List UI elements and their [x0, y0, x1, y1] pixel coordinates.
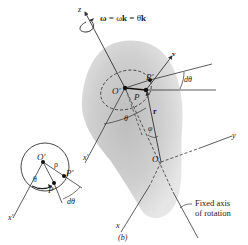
- inset-o-prime-label: O′: [37, 152, 46, 162]
- d-theta-label: dθ: [184, 75, 192, 84]
- inset-diagram: [13, 143, 82, 218]
- phi-label: φ: [148, 124, 153, 133]
- figure-caption: (b): [118, 233, 128, 242]
- v-label: v: [172, 50, 176, 58]
- inset-d-theta-label: dθ: [67, 197, 75, 206]
- inset-rho-label: ρ: [54, 160, 58, 169]
- x-axis-label: x: [115, 221, 120, 230]
- inset-p-label: P: [47, 185, 54, 195]
- inset-x-prime-label: x′: [7, 213, 14, 222]
- point-p: [144, 88, 148, 92]
- point-o-prime: [123, 86, 127, 90]
- p-prime-label: P′: [145, 72, 154, 82]
- inset-theta-label: θ: [33, 175, 37, 184]
- z-axis-label: z: [77, 5, 82, 14]
- rotation-arrow-icon: [80, 22, 94, 32]
- r-label: r: [153, 107, 157, 116]
- fixed-axis-label-1: Fixed axis: [195, 198, 230, 208]
- y-axis-label: y: [231, 131, 236, 140]
- rigid-body-rotation-diagram: z ω = ωk = θ̇k v P′ dθ O′ P r θ φ x′ O y…: [0, 0, 248, 245]
- diagram-svg: z ω = ωk = θ̇k v P′ dθ O′ P r θ φ x′ O y…: [0, 0, 248, 245]
- fixed-axis-label-2: of rotation: [195, 208, 231, 218]
- o-label: O: [152, 154, 159, 164]
- y-axis: [200, 136, 232, 148]
- x-prime-label: x′: [82, 153, 89, 162]
- rigid-body: [82, 41, 183, 219]
- inset-p-prime-label: P′: [65, 168, 74, 178]
- o-prime-label: O′: [112, 86, 121, 96]
- p-label: P: [133, 92, 140, 102]
- theta-label: θ: [124, 114, 128, 123]
- omega-equation: ω = ωk = θ̇k: [100, 13, 146, 23]
